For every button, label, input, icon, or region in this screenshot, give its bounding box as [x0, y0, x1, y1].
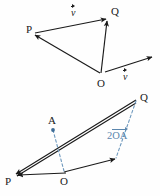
- arrow-free-vector-v: [105, 57, 152, 72]
- vector-label-v-free: v: [123, 68, 127, 82]
- vector-label-v-top: v: [71, 4, 75, 18]
- arrow-o-to-p: [35, 35, 100, 73]
- vector-symbol: v: [71, 8, 75, 18]
- point-a-dot: [51, 128, 55, 132]
- point-label-p-lower: P: [5, 176, 11, 187]
- upper-panel: [35, 19, 152, 73]
- point-label-o-lower: O: [60, 176, 68, 187]
- vector-arrow-bar: [71, 4, 75, 8]
- vector-figure: P Q O v v P O A Q 2OA: [0, 0, 160, 196]
- figure-canvas: [0, 0, 160, 196]
- arrow-p-to-q: [35, 19, 106, 33]
- scaled-vector-name: OA: [112, 130, 127, 142]
- vector-symbol: v: [123, 72, 127, 82]
- arrow-o-to-translated-tip: [64, 159, 115, 172]
- point-label-a-lower: A: [48, 115, 56, 126]
- point-label-p-upper: P: [26, 24, 32, 35]
- arrow-o-to-p: [18, 173, 66, 175]
- arrow-o-to-q: [101, 21, 107, 73]
- point-label-q-upper: Q: [111, 6, 119, 17]
- point-label-o-upper: O: [97, 78, 105, 89]
- scaled-vector-label: 2OA: [107, 130, 127, 142]
- vector-arrow-bar: [123, 68, 127, 72]
- point-label-q-lower: Q: [140, 92, 148, 103]
